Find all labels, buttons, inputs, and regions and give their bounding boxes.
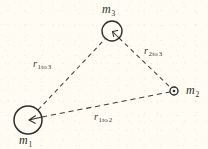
physics-diagram: m3 m2 m1 r1to3 r2to3 r1to2: [0, 0, 208, 149]
connector-r1to3: [38, 39, 105, 110]
body-m2: [170, 87, 178, 95]
distance-label-r1to3: r1to3: [33, 58, 51, 69]
distance-label-r1to2: r1to2: [94, 111, 112, 122]
body-m3: [102, 21, 122, 41]
body-label-m3: m3: [102, 2, 115, 17]
body-m2-center-dot: [173, 90, 176, 93]
body-label-m2: m2: [186, 83, 199, 98]
body-m1: [14, 106, 42, 134]
body-m1-circle: [14, 106, 42, 134]
body-label-m1: m1: [19, 133, 32, 148]
diagram-canvas: [0, 0, 208, 149]
distance-label-r2to3: r2to3: [144, 45, 162, 56]
